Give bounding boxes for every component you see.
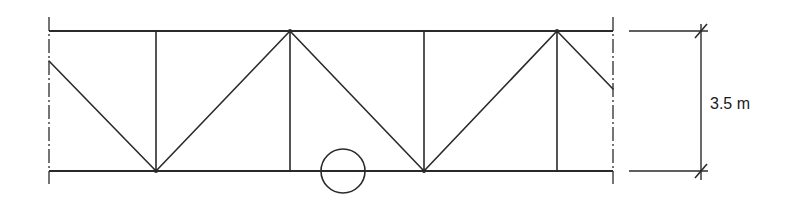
node (288, 29, 292, 33)
truss-diagram: 3.5 m (0, 0, 797, 203)
node (422, 169, 426, 173)
node (154, 169, 158, 173)
height-label: 3.5 m (710, 95, 750, 112)
diagonal-member (156, 31, 290, 171)
diagonal-member (557, 31, 613, 89)
diagonal-members (49, 31, 613, 171)
node (555, 29, 559, 33)
height-dimension: 3.5 m (629, 24, 750, 180)
diagonal-member (290, 31, 424, 171)
diagonal-member (424, 31, 557, 171)
diagonal-member (49, 61, 156, 171)
